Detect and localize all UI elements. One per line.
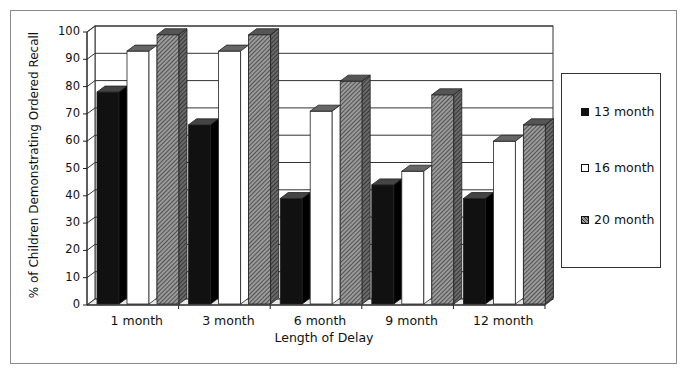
bar-20-month [432,89,462,304]
bar-16-month [127,45,157,304]
bar-16-month [219,45,249,304]
y-tick-label: 0 [50,297,80,311]
x-category-label: 3 month [202,313,255,328]
legend-label: 16 month [594,160,654,175]
y-axis-label: % of Children Demonstrating Ordered Reca… [27,32,41,298]
legend: 13 month16 month20 month [561,73,661,268]
x-axis-label: Length of Delay [275,330,374,345]
bar-20-month [157,29,187,304]
bar-16-month [310,105,340,304]
bar-16-month [493,135,523,304]
white-square-icon [581,164,589,172]
x-category-label: 1 month [111,313,164,328]
hatched-square-icon [581,216,589,224]
bar-13-month [97,86,127,304]
y-tick-label: 80 [50,79,80,93]
black-square-icon [581,108,589,116]
y-tick-label: 10 [50,270,80,284]
y-tick-label: 50 [50,161,80,175]
y-tick-label: 30 [50,215,80,229]
x-category-label: 9 month [385,313,438,328]
bar-13-month [280,193,310,304]
y-tick-label: 100 [50,24,80,38]
x-category-label: 12 month [473,313,533,328]
bar-13-month [189,119,219,304]
x-category-label: 6 month [294,313,347,328]
legend-item-13-month: 13 month [581,104,654,119]
bar-20-month [340,75,370,304]
legend-label: 20 month [594,212,654,227]
y-tick-label: 90 [50,51,80,65]
bar-16-month [402,165,432,304]
y-tick-label: 40 [50,188,80,202]
y-tick-label: 20 [50,242,80,256]
y-tick-label: 60 [50,133,80,147]
y-tick-label: 70 [50,106,80,120]
bar-13-month [463,193,493,304]
bar-20-month [249,29,279,304]
bar-13-month [372,179,402,304]
legend-item-16-month: 16 month [581,160,654,175]
legend-label: 13 month [594,104,654,119]
legend-item-20-month: 20 month [581,212,654,227]
bar-20-month [523,119,553,304]
